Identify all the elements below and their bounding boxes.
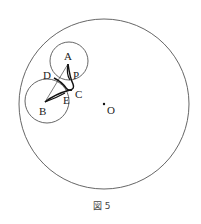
figure-caption: 図 5 [93, 201, 111, 211]
center-point-o [103, 103, 105, 105]
label-b: B [39, 105, 46, 117]
label-o: O [107, 104, 115, 116]
label-a: A [64, 50, 72, 62]
label-p: P [73, 69, 79, 81]
geometry-figure: A B C D E P O 図 5 [0, 0, 201, 224]
label-c: C [75, 88, 82, 100]
label-e: E [63, 94, 70, 106]
label-d: D [43, 69, 51, 81]
